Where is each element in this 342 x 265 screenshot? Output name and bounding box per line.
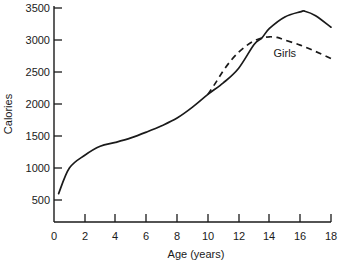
- series-line-boys: [59, 11, 331, 194]
- y-tick-label-1500: 1500: [26, 130, 50, 142]
- y-tick-label-2500: 2500: [26, 66, 50, 78]
- y-tick-label-1000: 1000: [26, 162, 50, 174]
- x-tick-label-2: 2: [82, 230, 88, 242]
- x-tick-label-8: 8: [174, 230, 180, 242]
- x-axis-tick-labels: 0 2 4 6 8 10 12 14 16 18: [51, 230, 337, 242]
- y-tick-label-3000: 3000: [26, 34, 50, 46]
- x-tick-label-16: 16: [294, 230, 306, 242]
- calorie-needs-line-chart: 3500 3000 2500 2000 1500 1000 500 0 2 4 …: [0, 0, 342, 265]
- x-tick-label-14: 14: [263, 230, 275, 242]
- chart-canvas: 3500 3000 2500 2000 1500 1000 500 0 2 4 …: [0, 0, 342, 265]
- x-tick-label-18: 18: [325, 230, 337, 242]
- series-label-girls: Girls: [274, 47, 297, 59]
- x-tick-label-4: 4: [112, 230, 118, 242]
- series-line-girls: [208, 37, 331, 95]
- x-tick-label-0: 0: [51, 230, 57, 242]
- x-axis-title: Age (years): [168, 248, 225, 260]
- y-axis-title: Calories: [2, 93, 14, 134]
- x-axis-ticks: [85, 214, 331, 222]
- y-tick-label-500: 500: [32, 194, 50, 206]
- y-tick-label-3500: 3500: [26, 2, 50, 14]
- y-axis-tick-labels: 3500 3000 2500 2000 1500 1000 500: [26, 2, 50, 206]
- y-axis-ticks: [54, 8, 62, 200]
- x-tick-label-12: 12: [233, 230, 245, 242]
- x-tick-label-6: 6: [143, 230, 149, 242]
- y-tick-label-2000: 2000: [26, 98, 50, 110]
- x-tick-label-10: 10: [202, 230, 214, 242]
